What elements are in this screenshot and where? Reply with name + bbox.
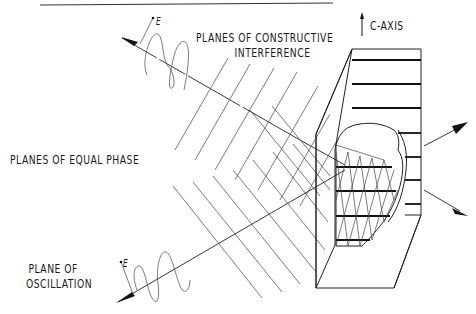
label-line: PLANES OF CONSTRUCTIVE [196,30,333,45]
label-plane-of-oscillation: PLANE OF OSCILLATION [26,261,92,291]
label-c-axis: C-AXIS [370,18,404,33]
arrow-up-icon [360,12,364,19]
arrow-tail-icon [121,37,138,46]
label-e-field-top: E [156,14,161,29]
label-e-field-bottom: E [123,256,128,271]
diffracted-beams [424,122,468,216]
arrow-head-icon [452,122,468,134]
crystal-block [316,49,421,288]
incident-beam-bottom [116,170,345,303]
arrow-tail-icon [116,292,135,303]
label-line: PLANE OF [26,261,92,276]
planes-of-equal-phase [173,58,336,298]
label-line: INTERFERENCE [196,45,333,60]
label-line: OSCILLATION [26,276,92,291]
label-planes-constructive-interference: PLANES OF CONSTRUCTIVE INTERFERENCE [196,30,333,60]
arrow-head-icon [452,208,468,216]
label-planes-equal-phase: PLANES OF EQUAL PHASE [10,152,139,167]
c-axis-arrow [360,12,364,36]
top-rule [40,3,333,5]
